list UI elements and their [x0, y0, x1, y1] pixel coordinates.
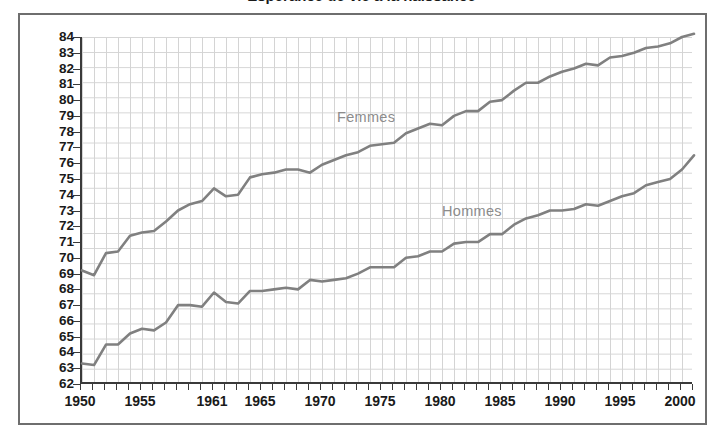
x-axis-tick-mark — [344, 384, 345, 390]
x-axis-tick-mark — [380, 384, 381, 390]
x-axis-tick-mark — [308, 384, 309, 390]
y-axis-tickmarks — [72, 37, 80, 384]
chart-title-sliver: Esperance de vie a la naissance — [0, 0, 723, 11]
x-axis-tick-mark — [560, 384, 561, 390]
y-axis-tick-label: 68 — [40, 283, 74, 297]
y-axis-tick-label: 70 — [40, 251, 74, 265]
x-axis-tick-mark — [152, 384, 153, 390]
y-axis-tick-mark — [73, 384, 80, 385]
series-label-femmes: Femmes — [337, 109, 395, 125]
series-line-hommes — [82, 155, 694, 365]
y-axis-tick-mark — [73, 53, 80, 54]
x-axis-tick-mark — [236, 384, 237, 390]
y-axis-tick-mark — [73, 132, 80, 133]
x-axis-tick-mark — [572, 384, 573, 390]
x-axis-tick-mark — [440, 384, 441, 390]
plot-area: Femmes Hommes — [80, 37, 692, 384]
x-axis-tick-mark — [224, 384, 225, 390]
x-axis-tick-mark — [692, 384, 693, 390]
y-axis-tick-label: 78 — [40, 125, 74, 139]
y-axis-tick-mark — [73, 37, 80, 38]
x-axis-tick-mark — [488, 384, 489, 390]
y-axis-tick-mark — [73, 289, 80, 290]
figure-frame: 8483828180797877767574737271706968676665… — [18, 13, 707, 425]
x-axis-tick-mark — [680, 384, 681, 390]
y-axis-tick-mark — [73, 368, 80, 369]
y-axis-tick-mark — [73, 100, 80, 101]
x-axis-tick-label: 1950 — [50, 393, 110, 410]
x-axis-tick-mark — [596, 384, 597, 390]
y-axis-tick-label: 75 — [40, 172, 74, 186]
y-axis-tick-label: 73 — [40, 204, 74, 218]
y-axis-tick-label: 76 — [40, 156, 74, 170]
y-axis-tick-mark — [73, 179, 80, 180]
x-axis-tick-mark — [608, 384, 609, 390]
x-axis-tick-mark — [476, 384, 477, 390]
y-axis-tick-label: 65 — [40, 330, 74, 344]
x-axis-tick-mark — [260, 384, 261, 390]
x-axis-tick-mark — [548, 384, 549, 390]
y-axis-tick-label: 67 — [40, 298, 74, 312]
y-axis-tick-label: 71 — [40, 235, 74, 249]
x-axis-tick-mark — [620, 384, 621, 390]
y-axis-tick-mark — [73, 84, 80, 85]
x-axis-tick-mark — [644, 384, 645, 390]
x-axis-tick-mark — [212, 384, 213, 390]
x-axis-tick-mark — [632, 384, 633, 390]
x-axis-tick-mark — [176, 384, 177, 390]
x-axis-tick-mark — [404, 384, 405, 390]
x-axis-tick-mark — [584, 384, 585, 390]
x-axis-tick-mark — [656, 384, 657, 390]
y-axis-tick-mark — [73, 163, 80, 164]
y-axis-tick-label: 63 — [40, 361, 74, 375]
x-axis-tick-label: 1975 — [350, 393, 410, 410]
y-axis-tick-label: 74 — [40, 188, 74, 202]
y-axis-tick-label: 83 — [40, 46, 74, 60]
y-axis-tick-mark — [73, 69, 80, 70]
x-axis-tick-mark — [368, 384, 369, 390]
x-axis-tickmarks — [80, 384, 692, 391]
x-axis-tick-label: 1995 — [590, 393, 650, 410]
x-axis-tick-mark — [668, 384, 669, 390]
y-axis-tick-mark — [73, 321, 80, 322]
x-axis-labels: 1950195519611965197019751980198519901995… — [80, 393, 692, 417]
y-axis-tick-label: 69 — [40, 267, 74, 281]
y-axis-tick-label: 66 — [40, 314, 74, 328]
x-axis-tick-mark — [464, 384, 465, 390]
x-axis-tick-mark — [536, 384, 537, 390]
y-axis-tick-mark — [73, 305, 80, 306]
y-axis-tick-label: 84 — [40, 30, 74, 44]
x-axis-tick-mark — [392, 384, 393, 390]
x-axis-tick-mark — [128, 384, 129, 390]
y-axis-tick-label: 82 — [40, 62, 74, 76]
y-axis-tick-mark — [73, 337, 80, 338]
chart-title: Esperance de vie a la naissance — [0, 0, 723, 4]
x-axis-tick-label: 2000 — [650, 393, 710, 410]
x-axis-tick-mark — [428, 384, 429, 390]
x-axis-tick-label: 1955 — [110, 393, 170, 410]
x-axis-tick-mark — [416, 384, 417, 390]
x-axis-tick-mark — [524, 384, 525, 390]
y-axis-tick-mark — [73, 242, 80, 243]
y-axis-tick-mark — [73, 352, 80, 353]
x-axis-tick-mark — [80, 384, 81, 390]
x-axis-tick-mark — [512, 384, 513, 390]
x-axis-tick-mark — [500, 384, 501, 390]
y-axis-tick-mark — [73, 226, 80, 227]
x-axis-tick-mark — [332, 384, 333, 390]
x-axis-tick-mark — [284, 384, 285, 390]
y-axis-tick-label: 81 — [40, 78, 74, 92]
y-axis-tick-label: 79 — [40, 109, 74, 123]
y-axis-tick-label: 62 — [40, 377, 74, 391]
x-axis-tick-mark — [452, 384, 453, 390]
series-label-hommes: Hommes — [442, 203, 502, 219]
x-axis-tick-label: 1965 — [230, 393, 290, 410]
x-axis-tick-mark — [92, 384, 93, 390]
y-axis-tick-mark — [73, 258, 80, 259]
y-axis-tick-label: 72 — [40, 220, 74, 234]
x-axis-tick-mark — [140, 384, 141, 390]
series-line-femmes — [82, 34, 694, 275]
x-axis-tick-mark — [200, 384, 201, 390]
x-axis-tick-label: 1985 — [470, 393, 530, 410]
y-axis-tick-label: 64 — [40, 346, 74, 360]
